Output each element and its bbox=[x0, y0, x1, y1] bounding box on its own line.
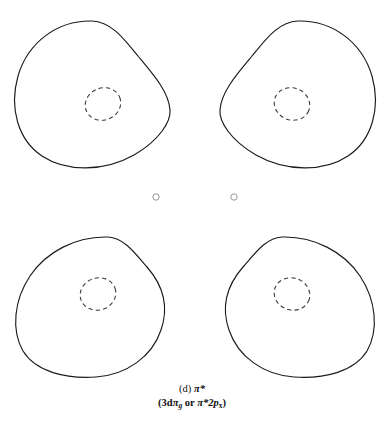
figure-caption: (d) π* (3dπg or π*2px) bbox=[0, 383, 384, 410]
caption-pi-second: π*2p bbox=[197, 397, 218, 408]
caption-line-primary: (d) π* bbox=[0, 383, 384, 396]
caption-or-text: or bbox=[182, 397, 197, 408]
lobe-bottom-left-outline bbox=[16, 237, 165, 377]
lobe-top-right bbox=[220, 21, 375, 168]
orbital-figure: (d) π* (3dπg or π*2px) bbox=[0, 0, 384, 424]
lobe-bottom-right bbox=[225, 237, 374, 377]
lobe-bottom-left bbox=[16, 237, 165, 377]
caption-close-paren: ) bbox=[222, 397, 226, 408]
lobe-top-left-nodal-ellipse bbox=[80, 82, 125, 125]
caption-orbital-symbol: π* bbox=[194, 383, 205, 394]
lobe-top-left-outline bbox=[15, 21, 170, 168]
caption-open-paren: (3d bbox=[158, 397, 173, 408]
nucleus-right-icon bbox=[231, 194, 237, 200]
lobe-top-right-nodal-ellipse bbox=[269, 82, 314, 125]
orbital-diagram-canvas bbox=[0, 0, 384, 424]
caption-line-secondary: (3dπg or π*2px) bbox=[0, 397, 384, 410]
nucleus-left-icon bbox=[153, 194, 159, 200]
lobe-top-right-outline bbox=[220, 21, 375, 168]
caption-figure-label: (d) bbox=[179, 383, 191, 394]
lobe-bottom-right-nodal-ellipse bbox=[270, 273, 314, 315]
lobe-bottom-left-nodal-ellipse bbox=[76, 273, 120, 315]
lobe-bottom-right-outline bbox=[225, 237, 374, 377]
lobe-top-left bbox=[15, 21, 170, 168]
